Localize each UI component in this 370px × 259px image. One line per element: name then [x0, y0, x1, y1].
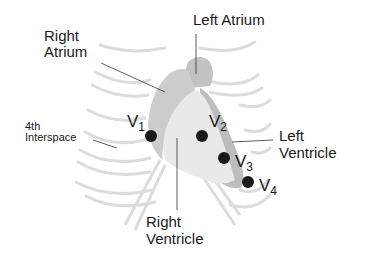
electrode-v2 — [196, 130, 208, 142]
label-left-ventricle-2: Ventricle — [279, 145, 337, 161]
electrode-v4 — [242, 176, 254, 188]
label-left-ventricle-1: Left — [279, 128, 304, 144]
electrode-v3 — [218, 152, 230, 164]
lead-v4: V4 — [259, 176, 277, 198]
label-right-atrium-2: Atrium — [44, 44, 87, 60]
electrode-v1 — [145, 130, 157, 142]
lead-v2: V2 — [209, 112, 227, 134]
lead-v1: V1 — [127, 112, 145, 134]
label-right-ventricle-2: Ventricle — [146, 231, 204, 247]
label-right-ventricle-1: Right — [146, 214, 181, 230]
label-interspace-2: Interspace — [25, 131, 76, 143]
lead-v3: V3 — [235, 152, 253, 174]
label-right-atrium-1: Right — [44, 28, 79, 44]
label-left-atrium: Left Atrium — [193, 12, 265, 28]
